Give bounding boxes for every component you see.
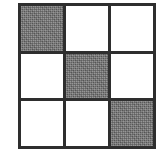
shaded-grid [18,3,156,149]
grid-cell-r1c3 [111,6,153,51]
grid-cell-r2c1 [21,54,63,99]
grid-cell-r3c3 [111,101,153,146]
grid-cell-r1c1 [21,6,63,51]
grid-cell-r3c1 [21,101,63,146]
grid-cell-r3c2 [66,101,108,146]
figure-root [0,0,162,158]
grid-cell-r1c2 [66,6,108,51]
grid-cell-r2c3 [111,54,153,99]
grid-cell-r2c2 [66,54,108,99]
